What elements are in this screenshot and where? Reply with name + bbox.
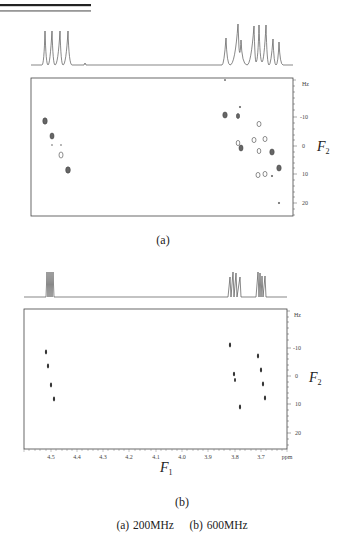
x-tick: 4.4	[73, 454, 81, 460]
panel-b-y-unit: Hz	[294, 312, 301, 318]
panel-a-y-tick: 0	[302, 143, 305, 149]
panel-a: Hz -10 0 10 20 F2	[31, 24, 330, 216]
panel-b-y-axis	[287, 311, 291, 445]
panel-b-projection-spectrum	[24, 272, 287, 297]
x-tick: 3.8	[231, 454, 239, 460]
panel-a-projection-spectrum	[31, 24, 293, 65]
x-tick: 4.0	[178, 454, 186, 460]
panel-b-y-tick: 20	[295, 430, 301, 436]
x-tick: 4.1	[152, 454, 160, 460]
panel-a-cross-peaks	[43, 79, 281, 203]
panel-a-y-axis	[293, 80, 297, 215]
panel-b-y-tick: 10	[295, 401, 301, 407]
panel-b-y-tick: 0	[295, 373, 298, 379]
panel-b-x-axis	[24, 449, 287, 452]
panel-a-y-unit: Hz	[302, 81, 309, 87]
panel-a-label: (a)	[156, 233, 169, 248]
panel-a-y-tick: 10	[302, 171, 308, 177]
panel-a-plot-frame	[31, 78, 293, 216]
figure-canvas: Hz -10 0 10 20 F2	[0, 0, 346, 548]
x-tick: 4.3	[99, 454, 107, 460]
panel-b-y-tick: -10	[293, 345, 301, 351]
panel-b-plot-frame	[24, 309, 287, 449]
panel-b: Hz -10 0 10 20 F2	[24, 272, 322, 477]
panel-a-y-axis-title: F2	[316, 139, 330, 156]
figure-caption: (a) 200MHz (b) 600MHz	[116, 519, 247, 531]
x-tick: 3.9	[204, 454, 212, 460]
x-unit: ppm	[282, 454, 293, 460]
panel-a-y-tick: -10	[300, 114, 308, 120]
panel-a-y-tick: 20	[302, 200, 308, 206]
header-rule	[0, 4, 91, 11]
panel-b-x-tick-labels: 4.5 4.4 4.3 4.2 4.1 4.0 3.9 3.8 3.7 ppm	[47, 454, 292, 460]
panel-b-label: (b)	[175, 495, 189, 510]
x-tick: 3.7	[257, 454, 265, 460]
x-tick: 4.5	[47, 454, 55, 460]
panel-b-x-axis-title: F1	[159, 460, 173, 477]
panel-b-y-axis-title: F2	[308, 370, 322, 387]
x-tick: 4.2	[125, 454, 133, 460]
panel-b-cross-peaks	[45, 343, 266, 410]
